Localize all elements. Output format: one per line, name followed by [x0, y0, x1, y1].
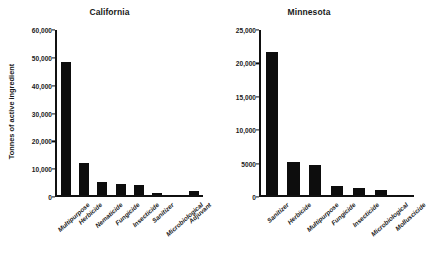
y-tick-mark	[256, 163, 259, 164]
bar-slot	[348, 30, 370, 195]
y-tick-label: 30,000	[32, 110, 52, 117]
x-tick-label: Molluscicide	[394, 201, 427, 232]
y-tick-mark	[52, 29, 55, 30]
bar-slot	[75, 30, 93, 195]
bar[interactable]	[61, 62, 71, 196]
bar[interactable]	[116, 184, 126, 195]
bar[interactable]	[353, 188, 365, 195]
bar-slot	[392, 30, 414, 195]
chart-panel-minnesota: Minnesota 0500010,00015,00020,00025,000 …	[211, 0, 421, 255]
x-tick-slot: Microbiological	[370, 199, 392, 209]
y-tick-label: 10,000	[236, 127, 256, 134]
y-tick-mark	[52, 141, 55, 142]
y-tick-mark	[256, 196, 259, 197]
bar[interactable]	[397, 195, 409, 196]
y-tick-label: 10,000	[32, 166, 52, 173]
x-tick-slot: Fungicide	[326, 199, 348, 209]
y-tick-mark	[52, 169, 55, 170]
bar-group-california	[57, 30, 203, 195]
y-tick-mark	[52, 57, 55, 58]
y-tick-label: 25,000	[236, 27, 256, 34]
bar[interactable]	[170, 195, 180, 196]
bar-slot	[326, 30, 348, 195]
y-axis-title-california: Tonnes of active ingredient	[7, 42, 16, 182]
y-tick-mark	[52, 85, 55, 86]
x-tick-slot: Nematicide	[93, 199, 111, 209]
x-tick-slot: Herbicide	[283, 199, 305, 209]
y-tick-mark	[256, 130, 259, 131]
bar-group-minnesota	[261, 30, 414, 195]
x-tick-label-group-california: MultipurposeHerbicideNematicideFungicide…	[57, 199, 203, 209]
x-tick-slot: Multipurpose	[57, 199, 75, 209]
y-tick-mark	[52, 196, 55, 197]
bar-slot	[57, 30, 75, 195]
bar[interactable]	[375, 190, 387, 195]
x-tick-slot: Sanitizer	[148, 199, 166, 209]
y-tick-label: 40,000	[32, 82, 52, 89]
y-tick-mark	[256, 29, 259, 30]
y-tick-label: 20,000	[32, 138, 52, 145]
bar-slot	[261, 30, 283, 195]
bar-slot	[130, 30, 148, 195]
y-tick-mark	[256, 96, 259, 97]
bar[interactable]	[189, 191, 199, 196]
x-tick-slot: Microbiological	[166, 199, 184, 209]
y-tick-label: 60,000	[32, 27, 52, 34]
x-tick-slot: Multipurpose	[304, 199, 326, 209]
bar-slot	[304, 30, 326, 195]
bar-slot	[148, 30, 166, 195]
chart-title-minnesota: Minnesota	[204, 7, 414, 17]
x-tick-slot: Adjuvant	[185, 199, 203, 209]
bar-slot	[370, 30, 392, 195]
bar[interactable]	[309, 165, 321, 195]
x-tick-slot: Fungicide	[111, 199, 129, 209]
bar[interactable]	[266, 52, 278, 196]
bar[interactable]	[134, 185, 144, 196]
bar-slot	[93, 30, 111, 195]
y-tick-label: 15,000	[236, 93, 256, 100]
chart-panel-california: California Tonnes of active ingredient 0…	[0, 0, 211, 255]
bar-slot	[283, 30, 305, 195]
x-tick-slot: Insecticide	[348, 199, 370, 209]
x-axis-line-california	[55, 195, 203, 197]
chart-title-california: California	[4, 7, 215, 17]
bar-slot	[166, 30, 184, 195]
y-tick-label: 20,000	[236, 60, 256, 67]
bar[interactable]	[97, 182, 107, 195]
x-tick-slot: Molluscicide	[392, 199, 414, 209]
y-tick-mark	[256, 63, 259, 64]
x-tick-slot: Herbicide	[75, 199, 93, 209]
bar-slot	[185, 30, 203, 195]
y-tick-mark	[52, 113, 55, 114]
x-axis-line-minnesota	[259, 195, 414, 197]
x-tick-slot: Sanitizer	[261, 199, 283, 209]
bar[interactable]	[287, 162, 299, 195]
bar-slot	[111, 30, 129, 195]
x-tick-slot: Insecticide	[130, 199, 148, 209]
y-tick-label: 5000	[241, 160, 256, 167]
x-tick-label-group-minnesota: SanitizerHerbicideMultipurposeFungicideI…	[261, 199, 414, 209]
bar[interactable]	[152, 193, 162, 195]
bar[interactable]	[79, 163, 89, 195]
plot-area-minnesota: 0500010,00015,00020,00025,000 SanitizerH…	[259, 30, 414, 197]
y-tick-label: 50,000	[32, 54, 52, 61]
plot-area-california: 010,00020,00030,00040,00050,00060,000 Mu…	[55, 30, 203, 197]
bar[interactable]	[331, 186, 343, 195]
